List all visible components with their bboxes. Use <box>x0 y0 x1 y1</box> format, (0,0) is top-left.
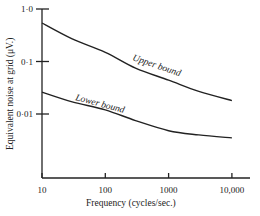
y-tick-label: 0·01 <box>17 109 34 119</box>
curve-label-lower-bound: Lower bound <box>74 92 126 115</box>
y-ticks: 1·00·10·01 <box>17 4 50 119</box>
curves <box>42 23 232 138</box>
x-ticks: 10100100010,000 <box>38 173 245 195</box>
curve-label-upper-bound: Upper bound <box>131 52 182 78</box>
curve-labels: Upper bound Lower bound <box>74 52 183 115</box>
x-axis-title: Frequency (cycles/sec.) <box>86 198 176 209</box>
noise-vs-frequency-chart: 1·00·10·01 10100100010,000 Upper bound L… <box>0 0 260 216</box>
y-axis-title: Equivalent noise at grid (μV.) <box>5 38 16 150</box>
curve-lower-bound <box>42 92 232 138</box>
x-tick-label: 10 <box>38 185 48 195</box>
x-tick-label: 10,000 <box>220 185 245 195</box>
x-tick-label: 1000 <box>160 185 179 195</box>
y-tick-label: 0·1 <box>21 57 33 67</box>
x-tick-label: 100 <box>99 185 113 195</box>
y-tick-label: 1·0 <box>21 4 33 14</box>
